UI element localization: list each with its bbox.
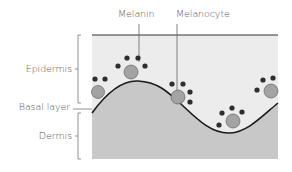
melanin-granule: [102, 76, 107, 81]
melanin-granule: [229, 105, 234, 110]
melanin-granule: [270, 75, 275, 80]
melanocyte-cell: [92, 86, 105, 99]
melanin-granule: [216, 122, 221, 127]
basal-layer-label: Basal layer: [19, 101, 70, 112]
dermis-bracket: [75, 113, 81, 159]
dermis-label: Dermis: [39, 130, 72, 141]
melanocyte-cell: [124, 65, 138, 79]
melanin-granule: [219, 110, 224, 115]
melanocyte-cell: [264, 84, 278, 98]
melanin-granule: [180, 81, 185, 86]
melanin-granule: [142, 63, 147, 68]
skin-diagram: Melanin Melanocyte Epidermis Basal layer…: [0, 0, 292, 172]
melanocyte-label: Melanocyte: [176, 8, 230, 19]
epidermis-bracket: [75, 35, 81, 103]
melanin-granule: [124, 55, 129, 60]
epidermis-label: Epidermis: [26, 63, 72, 74]
melanin-granule: [169, 81, 174, 86]
melanin-granule: [187, 99, 192, 104]
melanin-granule: [92, 76, 97, 81]
melanin-granule: [260, 77, 265, 82]
melanin-label: Melanin: [118, 8, 154, 19]
melanin-granule: [115, 63, 120, 68]
melanin-granule: [239, 109, 244, 114]
melanin-granule: [187, 89, 192, 94]
melanin-granule: [254, 87, 259, 92]
melanin-granule: [135, 55, 140, 60]
melanocyte-cell: [226, 114, 240, 128]
melanocyte-cell: [171, 90, 185, 104]
